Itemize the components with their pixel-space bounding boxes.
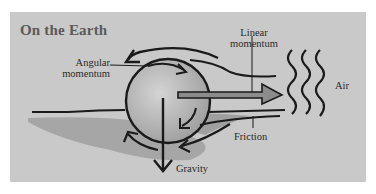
angular-leader [110, 65, 148, 66]
airflow-top-line [190, 60, 276, 77]
ground-line [32, 110, 125, 112]
gravity-label: Gravity [176, 163, 208, 174]
air-label: Air [335, 80, 349, 91]
diagram-title: On the Earth [20, 22, 107, 39]
ball [126, 59, 210, 143]
air-waves [288, 50, 324, 116]
angular-momentum-label: Angular momentum [54, 57, 110, 79]
airflow-bottom-line [208, 110, 285, 112]
linear-momentum-label: Linear momentum [224, 27, 284, 49]
friction-label: Friction [234, 131, 267, 142]
